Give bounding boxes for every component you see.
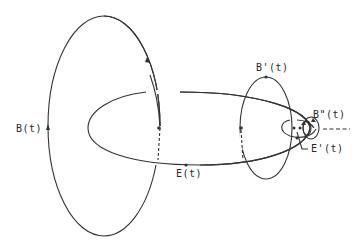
label-E: E(t) — [176, 169, 202, 179]
loop-B — [48, 16, 160, 236]
markers — [46, 57, 316, 167]
loop-Bdouble — [303, 117, 319, 139]
label-Eprime: E'(t) — [311, 144, 344, 154]
diagram-svg — [0, 0, 363, 251]
field-loops-diagram: B(t) E(t) B'(t) B"(t) E'(t) — [0, 0, 363, 251]
label-B: B(t) — [16, 124, 42, 134]
loop-Bprime — [240, 77, 292, 179]
label-Bprime: B'(t) — [256, 63, 289, 73]
label-Bdouble: B"(t) — [313, 110, 346, 120]
